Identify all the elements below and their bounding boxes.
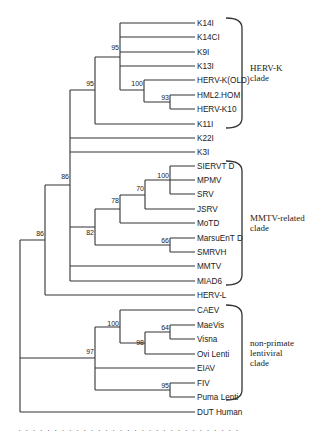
bootstrap-value: 93 <box>161 94 169 101</box>
tip-label: K14CI <box>197 33 220 42</box>
figure-caption-partial: · · · · · · · · · · · · · · · · · · · · … <box>18 425 308 433</box>
bootstrap-value: 70 <box>136 185 144 192</box>
tip-label: MoTD <box>197 219 219 228</box>
tip-label: MarsuEnT D <box>197 234 243 243</box>
tip-label: MIAD6 <box>197 277 222 286</box>
clade-label: MMTV-related <box>250 213 305 223</box>
tip-label: EIAV <box>197 364 216 373</box>
clade-bracket <box>226 161 242 285</box>
tip-label: SMRVH <box>197 248 227 257</box>
tip-label: MPMV <box>197 176 222 185</box>
bootstrap-value: 64 <box>161 324 169 331</box>
bootstrap-value: 66 <box>161 237 169 244</box>
tip-label: FIV <box>197 379 210 388</box>
bootstrap-value: 98 <box>136 339 144 346</box>
bootstrap-value: 86 <box>61 173 69 180</box>
bootstrap-value: 100 <box>157 172 169 179</box>
bootstrap-values: 95100939586827870100668697100986495 <box>36 44 169 389</box>
bootstrap-value: 97 <box>86 348 94 355</box>
tip-label: SRV <box>197 190 214 199</box>
bootstrap-value: 95 <box>161 382 169 389</box>
tree-branches <box>20 23 195 412</box>
tip-label: K13I <box>197 62 214 71</box>
clade-label: non-primate <box>250 338 294 348</box>
tip-label: MMTV <box>197 262 222 271</box>
tip-label: K14I <box>197 19 214 28</box>
tip-label: HERV-L <box>197 291 227 300</box>
bootstrap-value: 100 <box>131 80 143 87</box>
tip-label: Visna <box>197 335 218 344</box>
bootstrap-value: 82 <box>86 229 94 236</box>
clade-label: lentiviral <box>250 348 283 358</box>
tip-label: K9I <box>197 48 209 57</box>
tip-label: CAEV <box>197 306 220 315</box>
tip-label: Puma Lenti <box>197 393 239 402</box>
tip-label: JSRV <box>197 205 218 214</box>
tip-label: K3I <box>197 148 209 157</box>
clade-label: clade <box>250 358 269 368</box>
tip-label: K11I <box>197 120 213 129</box>
tip-label: Ovi Lenti <box>197 350 229 359</box>
tip-label: HML2.HOM <box>197 91 240 100</box>
phylogenetic-tree: K14IK14CIK9IK13IHERV-K(OLD)HML2.HOMHERV-… <box>0 0 314 433</box>
clade-label: clade <box>250 73 269 83</box>
tip-label: HERV-K10 <box>197 105 237 114</box>
bootstrap-value: 78 <box>111 197 119 204</box>
tip-label: SIERVT D <box>197 162 235 171</box>
bootstrap-value: 86 <box>36 230 44 237</box>
bootstrap-value: 95 <box>111 44 119 51</box>
tip-label: MaeVis <box>197 321 224 330</box>
clade-label: HERV-K <box>250 63 283 73</box>
bootstrap-value: 95 <box>86 80 94 87</box>
bootstrap-value: 100 <box>107 320 119 327</box>
tip-label: K22I <box>197 134 214 143</box>
clade-label: clade <box>250 223 269 233</box>
tip-label: DUT Human <box>197 408 243 417</box>
